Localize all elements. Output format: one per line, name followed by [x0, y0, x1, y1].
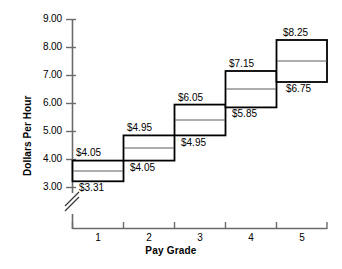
- bar-pay-grade-2: [124, 135, 175, 160]
- y-tick-label-4: 4.00: [28, 153, 62, 164]
- pay-grade-range-chart: 9.00 8.00 7.00 6.00 5.00 4.00 3.00 1 2 3…: [0, 0, 342, 269]
- bar-1-min-label: $3.31: [79, 182, 104, 193]
- bar-5-min-label: $6.75: [286, 83, 311, 94]
- x-tick-label-2: 2: [129, 232, 169, 243]
- bar-2-min-label: $4.05: [130, 162, 155, 173]
- bar-1-max-label: $4.05: [76, 147, 101, 158]
- bar-3-min-label: $4.95: [181, 137, 206, 148]
- x-tick-label-3: 3: [180, 232, 220, 243]
- bar-5-max-label: $8.25: [283, 27, 308, 38]
- x-tick-label-4: 4: [231, 232, 271, 243]
- bar-3-max-label: $6.05: [178, 92, 203, 103]
- bar-2-max-label: $4.95: [127, 122, 152, 133]
- bar-pay-grade-4: [226, 71, 277, 107]
- x-tick-label-5: 5: [282, 232, 322, 243]
- y-tick-label-7: 7.00: [28, 69, 62, 80]
- x-axis-title: Pay Grade: [0, 245, 342, 256]
- y-axis-title: Dollars Per Hour: [22, 95, 33, 176]
- bar-pay-grade-5: [277, 40, 328, 82]
- y-tick-label-8: 8.00: [28, 41, 62, 52]
- bar-4-max-label: $7.15: [229, 58, 254, 69]
- y-tick-label-3: 3.00: [28, 181, 62, 192]
- x-tick-label-1: 1: [78, 232, 118, 243]
- bar-4-min-label: $5.85: [232, 108, 257, 119]
- axis-break-icon: [65, 192, 79, 211]
- y-tick-label-5: 5.00: [28, 125, 62, 136]
- bar-pay-grade-1: [73, 161, 124, 182]
- y-tick-label-6: 6.00: [28, 97, 62, 108]
- y-tick-label-9: 9.00: [28, 13, 62, 24]
- bar-pay-grade-3: [175, 105, 226, 136]
